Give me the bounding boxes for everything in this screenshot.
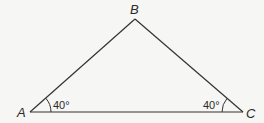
angle-arc-a xyxy=(46,98,51,112)
angle-label-a: 40° xyxy=(53,99,70,111)
angle-arc-c xyxy=(222,98,227,112)
angle-label-c: 40° xyxy=(203,99,220,111)
vertex-label-a: A xyxy=(16,105,26,120)
side-ab xyxy=(30,19,135,112)
vertex-label-c: C xyxy=(246,106,256,121)
vertex-label-b: B xyxy=(130,2,139,17)
triangle-diagram: A B C 40° 40° xyxy=(0,0,264,123)
